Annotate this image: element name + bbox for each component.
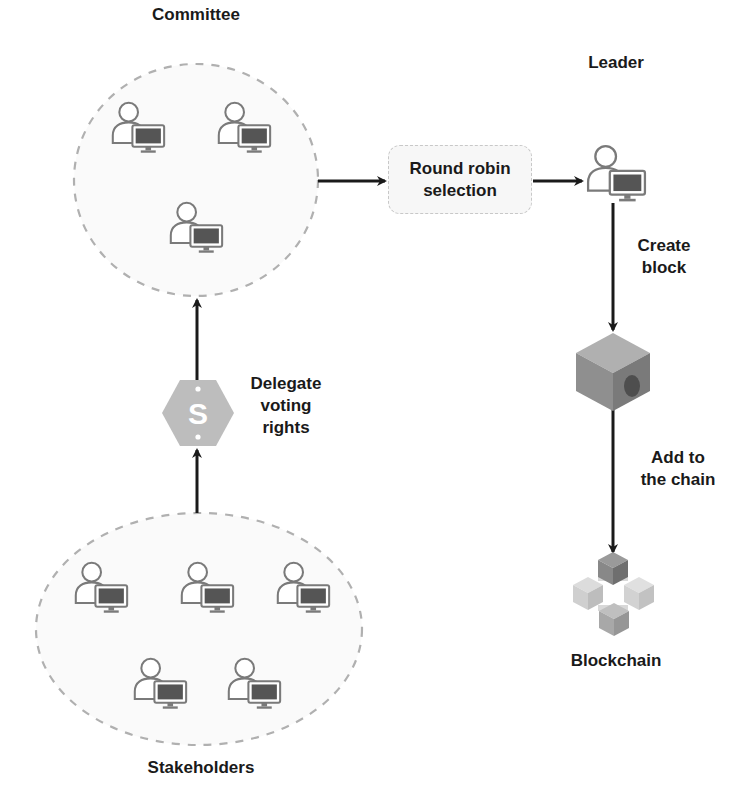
round-robin-label-line1: Round robin xyxy=(409,158,510,180)
edge-label-create-block: Create block xyxy=(622,235,706,279)
edge-label-delegate-voting-rights: Delegate voting rights xyxy=(246,373,326,439)
stakeholders-group xyxy=(36,513,362,745)
edge-label-line: block xyxy=(622,257,706,279)
svg-text:S: S xyxy=(188,397,208,430)
edge-label-line: the chain xyxy=(622,469,734,491)
cube-icon xyxy=(576,333,650,411)
committee-label: Committee xyxy=(136,4,256,26)
edge-label-line: Add to xyxy=(622,447,734,469)
blockchain-icon xyxy=(573,552,654,636)
diagram-canvas: S xyxy=(0,0,748,807)
edge-label-add-to-chain: Add to the chain xyxy=(622,447,734,491)
committee-boundary xyxy=(74,64,318,296)
round-robin-label-line2: selection xyxy=(409,180,510,202)
edge-label-line: voting xyxy=(246,395,326,417)
stakeholders-label: Stakeholders xyxy=(126,757,276,779)
edge-label-line: rights xyxy=(246,417,326,439)
dollar-hexagon-icon: S xyxy=(162,380,234,446)
stakeholders-boundary xyxy=(36,513,362,745)
edge-label-line: Delegate xyxy=(246,373,326,395)
round-robin-selection-box: Round robin selection xyxy=(388,145,532,214)
leader-label: Leader xyxy=(566,52,666,74)
leader-icon xyxy=(588,146,645,201)
edge-label-line: Create xyxy=(622,235,706,257)
blockchain-label: Blockchain xyxy=(556,650,676,672)
committee-group xyxy=(74,64,318,296)
